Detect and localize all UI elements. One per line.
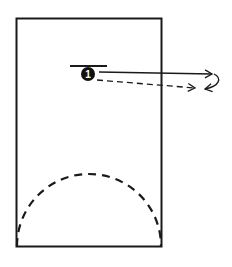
play-diagram: 1 (0, 0, 232, 267)
cut-path-arrow (99, 72, 212, 74)
player-1: 1 (81, 67, 95, 81)
court-boundary (17, 19, 162, 247)
three-point-arc (17, 174, 161, 246)
dribble-path-arrow (97, 80, 195, 88)
player-1-label: 1 (85, 69, 91, 80)
return-curve-arrow (205, 74, 219, 89)
